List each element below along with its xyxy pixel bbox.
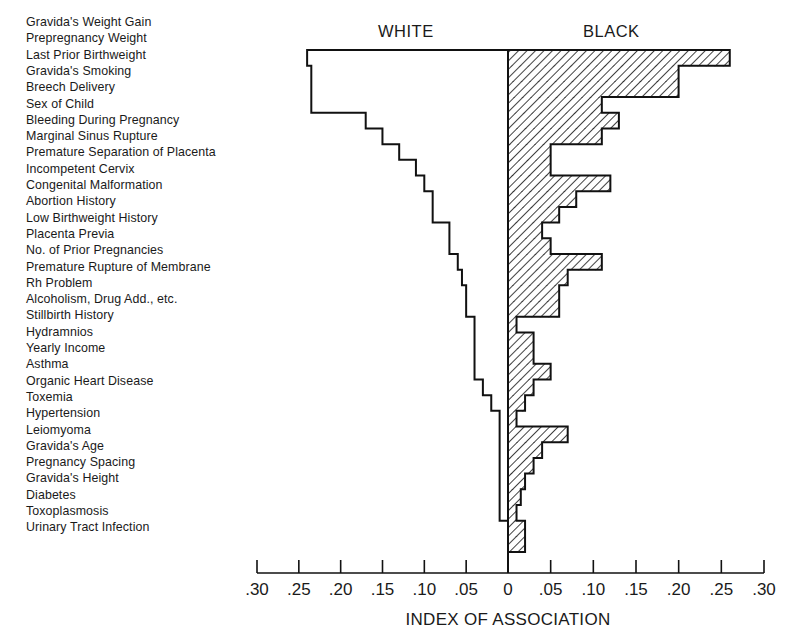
x-tick-label: .10 xyxy=(582,580,606,600)
black-bar xyxy=(508,411,517,427)
black-bar xyxy=(508,317,517,333)
x-tick-label: .20 xyxy=(329,580,353,600)
x-tick-label: .05 xyxy=(454,580,478,600)
black-bar xyxy=(508,238,551,254)
black-bar xyxy=(508,191,576,207)
black-bar xyxy=(508,66,679,82)
black-bar xyxy=(508,81,679,97)
black-bar xyxy=(508,536,525,552)
x-tick-label: .05 xyxy=(539,580,563,600)
white-series-outline xyxy=(307,50,508,552)
black-bar xyxy=(508,144,551,160)
x-tick-label: .20 xyxy=(667,580,691,600)
black-bar xyxy=(508,113,619,129)
black-bar xyxy=(508,270,568,286)
black-bar xyxy=(508,128,602,144)
black-bar xyxy=(508,50,730,66)
x-axis xyxy=(257,560,764,573)
black-bar xyxy=(508,97,602,113)
black-bar xyxy=(508,427,568,443)
black-bar xyxy=(508,301,559,317)
black-bar xyxy=(508,223,542,239)
x-tick-label: 0 xyxy=(503,580,512,600)
x-tick-label: .25 xyxy=(710,580,734,600)
black-bar xyxy=(508,395,525,411)
x-tick-label: .25 xyxy=(287,580,311,600)
black-bar xyxy=(508,458,534,474)
x-tick-label: .30 xyxy=(752,580,776,600)
x-tick-label: .15 xyxy=(371,580,395,600)
black-bar xyxy=(508,379,534,395)
black-bar xyxy=(508,160,551,176)
black-bar xyxy=(508,474,525,490)
x-axis-title: INDEX OF ASSOCIATION xyxy=(406,610,611,630)
black-bar xyxy=(508,285,559,301)
x-tick-label: .10 xyxy=(413,580,437,600)
black-bar xyxy=(508,442,542,458)
black-bar xyxy=(508,364,551,380)
diverging-bar-chart xyxy=(0,0,788,643)
black-bar xyxy=(508,176,610,192)
black-bar xyxy=(508,505,517,521)
x-tick-label: .15 xyxy=(624,580,648,600)
black-bar xyxy=(508,489,521,505)
black-bar xyxy=(508,207,559,223)
black-bar xyxy=(508,332,534,348)
black-bar xyxy=(508,521,525,537)
x-tick-label: .30 xyxy=(245,580,269,600)
black-bar xyxy=(508,348,534,364)
black-bar xyxy=(508,254,602,270)
